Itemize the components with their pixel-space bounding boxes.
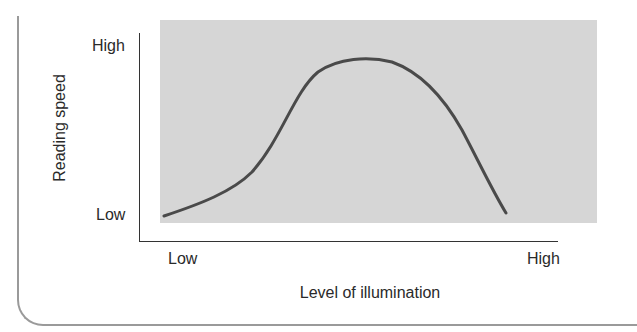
y-tick-low: Low xyxy=(96,206,125,224)
y-axis xyxy=(139,33,140,242)
y-axis-title: Reading speed xyxy=(51,74,69,182)
x-tick-high: High xyxy=(527,250,560,268)
y-tick-high: High xyxy=(92,37,125,55)
x-tick-low: Low xyxy=(168,250,197,268)
x-axis-title: Level of illumination xyxy=(300,284,441,302)
x-axis xyxy=(139,241,558,242)
